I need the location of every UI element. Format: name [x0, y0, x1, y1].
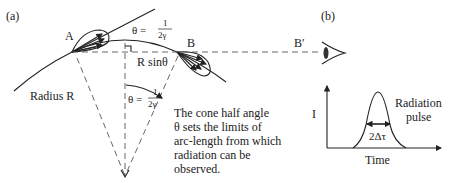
svg-text:observed.: observed.	[174, 162, 220, 176]
cone-right	[125, 56, 178, 176]
pulse-label-1: Radiation	[395, 96, 442, 110]
svg-text:θ =: θ =	[128, 93, 142, 105]
svg-text:2γ: 2γ	[148, 99, 157, 109]
pulse-label-2: pulse	[406, 110, 431, 124]
synchrotron-radiation-diagram: (a) A B B′ θ = 1 2γ R sinθ θ	[0, 0, 453, 183]
cone-left	[77, 58, 125, 176]
pulse-width-label: 2Δτ	[369, 130, 387, 142]
svg-text:The cone half angle: The cone half angle	[174, 106, 269, 120]
point-b-prime-label: B′	[294, 36, 305, 50]
svg-text:1: 1	[163, 18, 168, 28]
svg-text:radiation can be: radiation can be	[174, 148, 251, 162]
theta-bottom-label: θ = 1 2γ	[128, 87, 162, 109]
r-sin-theta-label: R sinθ	[137, 55, 168, 69]
radius-label: Radius R	[30, 89, 74, 103]
y-axis-label: I	[312, 107, 316, 121]
svg-text:1: 1	[153, 87, 158, 97]
eye-icon	[322, 42, 345, 64]
theta-top-label: θ = 1 2γ	[132, 18, 172, 40]
right-angle-mark	[125, 46, 131, 52]
x-axis-label: Time	[365, 153, 390, 167]
svg-text:2γ: 2γ	[158, 30, 167, 40]
point-b-label: B	[187, 36, 195, 50]
panel-a-label: (a)	[6, 9, 19, 23]
svg-text:θ =: θ =	[132, 24, 146, 36]
svg-text:θ sets the limits of: θ sets the limits of	[174, 120, 262, 134]
caption: The cone half angle θ sets the limits of…	[174, 106, 281, 176]
svg-text:arc-length from which: arc-length from which	[174, 134, 281, 148]
panel-b-label: (b)	[321, 9, 335, 23]
radiation-lobe-b	[177, 52, 210, 76]
point-a-label: A	[65, 29, 74, 43]
radiation-lobe-a	[72, 30, 109, 52]
